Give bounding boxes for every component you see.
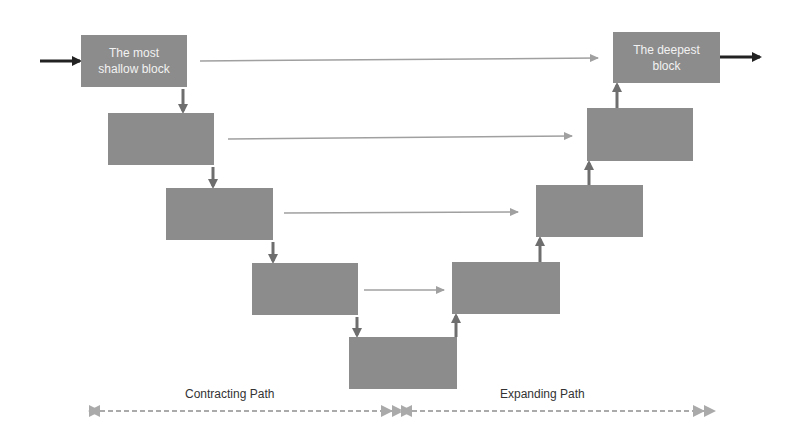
contracting-path-label: Contracting Path — [185, 387, 274, 401]
block-label: The deepest block — [632, 42, 702, 74]
expanding-path-label: Expanding Path — [500, 387, 585, 401]
skip-arrow — [200, 58, 598, 61]
skip-arrow — [284, 212, 518, 213]
bottleneck-block — [349, 337, 457, 389]
block-label: The most shallow block — [94, 45, 174, 77]
decoder-block-4 — [452, 262, 560, 314]
encoder-block-shallowest: The most shallow block — [81, 35, 187, 87]
skip-arrow — [228, 136, 572, 139]
decoder-block-3 — [536, 185, 643, 237]
decoder-block-2 — [587, 108, 693, 161]
decoder-block-deepest: The deepest block — [613, 32, 720, 83]
encoder-block-3 — [166, 188, 273, 240]
encoder-block-2 — [108, 113, 214, 165]
encoder-block-4 — [252, 263, 358, 315]
